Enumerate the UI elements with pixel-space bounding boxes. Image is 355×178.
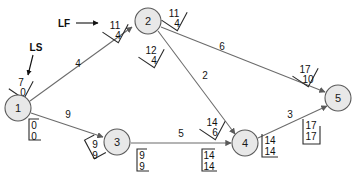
time-box-edge-2-4-head: 14 6 bbox=[199, 112, 227, 141]
network-diagram-canvas: 4 9 2 6 5 3 7 0 11 4 11 4 17 bbox=[0, 0, 355, 178]
edge-weight-1-3: 9 bbox=[65, 109, 71, 120]
node-1[interactable]: 1 bbox=[5, 95, 31, 121]
time-box-edge-4-5-tail: 14 14 bbox=[262, 134, 278, 157]
time-box-edge-1-3-head-top: 9 bbox=[92, 139, 98, 150]
node-3[interactable]: 3 bbox=[104, 129, 130, 155]
time-box-edge-2-4-tail: 12 4 bbox=[138, 40, 166, 69]
time-box-edge-3-4-tail-top: 9 bbox=[139, 150, 145, 161]
node-2-label: 2 bbox=[145, 15, 151, 27]
edge-weight-2-4: 2 bbox=[202, 70, 208, 81]
time-box-edge-4-5-head-bottom: 17 bbox=[305, 131, 317, 142]
node-5-label: 5 bbox=[335, 92, 341, 104]
annotations-group: LS LF bbox=[28, 18, 98, 76]
time-box-edge-1-3-tail-bottom: 0 bbox=[31, 131, 37, 142]
node-3-label: 3 bbox=[114, 136, 120, 148]
node-1-label: 1 bbox=[15, 102, 21, 114]
time-box-edge-2-4-tail-bottom: 4 bbox=[151, 55, 157, 66]
time-box-edge-4-5-tail-top: 14 bbox=[264, 135, 276, 146]
node-5[interactable]: 5 bbox=[325, 85, 351, 111]
edge-weight-4-5: 3 bbox=[287, 109, 293, 120]
time-box-edge-1-3-tail-top: 0 bbox=[31, 120, 37, 131]
time-box-edge-1-3-head-bottom: 9 bbox=[92, 150, 98, 161]
time-box-edge-3-4-tail-bottom: 9 bbox=[139, 161, 145, 172]
time-box-edge-3-4-head: 14 14 bbox=[202, 149, 217, 172]
edges-group bbox=[30, 27, 327, 143]
time-box-edge-2-5-head-bottom: 10 bbox=[302, 74, 314, 85]
time-box-edge-4-5-head-top: 17 bbox=[305, 120, 317, 131]
time-box-edge-4-5-tail-bottom: 14 bbox=[264, 146, 276, 157]
time-box-edge-2-5-tail-bottom: 4 bbox=[174, 18, 180, 29]
edge-weight-3-4: 5 bbox=[178, 128, 184, 139]
time-box-edge-1-3-head: 9 9 bbox=[82, 134, 107, 163]
time-box-edge-1-3-tail: 0 0 bbox=[29, 119, 41, 142]
edge-weight-2-5: 6 bbox=[219, 41, 225, 52]
time-box-edge-2-4-head-bottom: 6 bbox=[212, 127, 218, 138]
edge-weights-group: 4 9 2 6 5 3 bbox=[65, 41, 293, 139]
ls-annotation-arrow bbox=[28, 55, 33, 75]
node-4[interactable]: 4 bbox=[232, 130, 258, 156]
time-box-edge-1-2-head-bottom: 4 bbox=[115, 30, 121, 41]
time-box-edge-2-5-tail: 11 4 bbox=[161, 3, 189, 32]
edge-weight-1-2: 4 bbox=[75, 58, 81, 69]
network-diagram-svg: 4 9 2 6 5 3 7 0 11 4 11 4 17 bbox=[0, 0, 355, 178]
lf-annotation-label: LF bbox=[58, 18, 70, 29]
node-2[interactable]: 2 bbox=[135, 8, 161, 34]
time-box-edge-4-5-head: 17 17 bbox=[303, 119, 320, 144]
node-4-label: 4 bbox=[242, 137, 248, 149]
time-box-edge-3-4-tail: 9 9 bbox=[137, 149, 149, 172]
time-box-edge-1-2-head: 11 4 bbox=[102, 15, 130, 44]
time-box-edge-3-4-head-top: 14 bbox=[203, 150, 215, 161]
time-box-edge-3-4-head-bottom: 14 bbox=[203, 161, 215, 172]
ls-annotation-label: LS bbox=[30, 42, 43, 53]
edge-2-5 bbox=[161, 27, 325, 92]
